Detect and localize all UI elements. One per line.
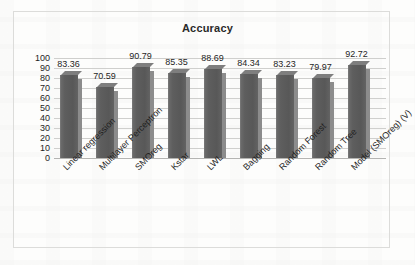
y-axis-tick-label: 90 (40, 64, 50, 73)
bar-value-label: 79.97 (303, 62, 339, 72)
y-axis-tick-label: 10 (40, 144, 50, 153)
bar-value-label: 83.36 (51, 59, 87, 69)
chart-title: Accuracy (0, 22, 415, 34)
y-axis-tick-label: 40 (40, 114, 50, 123)
bar-value-label: 84.34 (231, 58, 267, 68)
bar[interactable] (276, 75, 294, 158)
bar-value-label: 85.35 (159, 57, 195, 67)
bar[interactable] (168, 73, 186, 158)
y-axis-tick-label: 20 (40, 134, 50, 143)
y-axis-tick-label: 100 (35, 54, 50, 63)
bar[interactable] (348, 65, 366, 158)
bar-value-label: 88.69 (195, 53, 231, 63)
bar-value-label: 70.59 (87, 71, 123, 81)
bar[interactable] (132, 67, 150, 158)
y-axis-tick-label: 50 (40, 104, 50, 113)
bar[interactable] (312, 78, 330, 158)
y-axis-tick-label: 80 (40, 74, 50, 83)
y-axis-tick-label: 60 (40, 94, 50, 103)
bar[interactable] (240, 74, 258, 158)
bar-value-label: 90.79 (123, 51, 159, 61)
bar-value-label: 83.23 (267, 59, 303, 69)
y-axis-tick-label: 0 (45, 154, 50, 163)
chart-screenshot: Accuracy 100 90 80 70 60 50 40 30 20 10 … (0, 0, 415, 265)
bar[interactable] (60, 75, 78, 158)
y-axis-tick-label: 30 (40, 124, 50, 133)
y-axis-tick-labels: 100 90 80 70 60 50 40 30 20 10 0 (18, 58, 50, 158)
bar[interactable] (204, 69, 222, 158)
y-axis-tick-label: 70 (40, 84, 50, 93)
bar-value-label: 92.72 (339, 49, 375, 59)
